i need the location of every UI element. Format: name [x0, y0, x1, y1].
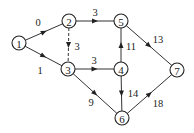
edge-weight-3-6: 9 — [88, 97, 93, 108]
edge-weight-5-7: 13 — [153, 34, 164, 45]
node-1: 1 — [12, 36, 26, 50]
node-4: 4 — [114, 62, 128, 76]
node-2: 2 — [62, 14, 76, 28]
weights-layer: 01333911141318 — [35, 7, 163, 109]
node-6: 6 — [115, 111, 129, 125]
node-7: 7 — [170, 63, 184, 77]
arrow-head-icon — [92, 19, 98, 24]
edge-weight-4-5: 11 — [126, 41, 136, 52]
graph-diagram: 01333911141318 1234567 — [0, 0, 194, 133]
arrow-head-icon — [92, 67, 98, 72]
edges-layer — [25, 21, 172, 113]
arrow-head-icon — [119, 42, 124, 48]
edge-weight-1-2: 0 — [35, 17, 40, 28]
node-label: 2 — [66, 16, 72, 28]
node-label: 6 — [119, 113, 125, 125]
arrow-head-icon — [119, 90, 124, 96]
arrow-head-icon — [66, 42, 71, 48]
edge-weight-3-4: 3 — [91, 55, 96, 66]
edge-weight-1-3: 1 — [37, 65, 42, 76]
edge-weight-2-3: 3 — [74, 41, 79, 52]
node-label: 4 — [118, 64, 124, 76]
node-label: 5 — [118, 16, 124, 28]
edge-weight-2-5: 3 — [92, 7, 97, 18]
node-label: 7 — [174, 65, 180, 77]
node-label: 1 — [16, 38, 22, 50]
edge-weight-4-6: 14 — [128, 88, 139, 99]
node-5: 5 — [114, 14, 128, 28]
edge-weight-6-7: 18 — [153, 98, 164, 109]
node-3: 3 — [61, 62, 75, 76]
node-label: 3 — [65, 64, 71, 76]
